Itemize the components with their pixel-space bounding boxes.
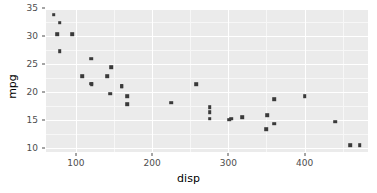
y-axis-tick-mark <box>42 147 45 148</box>
data-point <box>55 32 59 36</box>
data-point <box>208 105 212 109</box>
gridline-major-vertical <box>228 8 229 152</box>
data-point <box>169 101 173 105</box>
y-axis-tick-mark <box>42 8 45 9</box>
x-axis-title: disp <box>0 172 377 185</box>
gridline-minor-vertical <box>343 8 344 152</box>
data-point <box>349 144 353 148</box>
y-axis-tick-mark <box>42 64 45 65</box>
data-point <box>195 82 199 86</box>
data-point <box>90 82 94 86</box>
gridline-minor-horizontal <box>46 22 368 23</box>
gridline-major-horizontal <box>46 8 368 9</box>
data-point <box>303 95 307 99</box>
x-axis-tick-label: 400 <box>296 158 313 168</box>
x-axis-tick-label: 100 <box>67 158 84 168</box>
gridline-minor-horizontal <box>46 78 368 79</box>
data-point <box>227 118 231 122</box>
gridline-major-horizontal <box>46 36 368 37</box>
gridline-minor-horizontal <box>46 134 368 135</box>
gridline-major-vertical <box>152 8 153 152</box>
data-point <box>108 92 112 96</box>
y-axis-tick-label: 10 <box>12 143 38 153</box>
gridline-minor-vertical <box>190 8 191 152</box>
data-point <box>70 32 74 36</box>
y-axis-title: mpg <box>6 67 19 107</box>
y-axis-tick-mark <box>42 91 45 92</box>
data-point <box>358 144 362 148</box>
gridline-minor-horizontal <box>46 50 368 51</box>
x-axis-tick-mark <box>75 153 76 156</box>
x-axis-tick-mark <box>152 153 153 156</box>
gridline-major-horizontal <box>46 92 368 93</box>
x-axis-tick-label: 200 <box>143 158 160 168</box>
data-point <box>333 120 337 124</box>
data-point <box>58 21 62 25</box>
data-point <box>240 115 244 119</box>
data-point <box>110 66 114 70</box>
data-point <box>126 95 130 99</box>
data-point <box>208 110 212 114</box>
y-axis-tick-label: 15 <box>12 115 38 125</box>
data-point <box>208 117 212 121</box>
data-point <box>272 97 276 101</box>
gridline-minor-vertical <box>114 8 115 152</box>
scatter-plot-figure: 101520253035100200300400 mpg disp <box>0 0 377 193</box>
gridline-major-horizontal <box>46 148 368 149</box>
x-axis-tick-mark <box>228 153 229 156</box>
data-point <box>90 57 94 61</box>
data-point <box>126 102 130 106</box>
data-point <box>265 114 269 118</box>
gridline-major-vertical <box>305 8 306 152</box>
data-point <box>80 75 84 79</box>
x-axis-tick-label: 300 <box>220 158 237 168</box>
x-axis-tick-mark <box>304 153 305 156</box>
data-point <box>272 122 276 126</box>
plot-panel <box>46 8 368 152</box>
gridline-major-horizontal <box>46 120 368 121</box>
y-axis-tick-label: 35 <box>12 3 38 13</box>
gridline-major-horizontal <box>46 64 368 65</box>
gridline-minor-horizontal <box>46 106 368 107</box>
data-point <box>52 13 56 17</box>
data-point <box>105 75 109 79</box>
data-point <box>120 85 124 89</box>
y-axis-tick-mark <box>42 119 45 120</box>
data-point <box>58 50 62 54</box>
data-point <box>265 128 269 132</box>
y-axis-tick-mark <box>42 36 45 37</box>
y-axis-tick-label: 30 <box>12 31 38 41</box>
gridline-major-vertical <box>76 8 77 152</box>
